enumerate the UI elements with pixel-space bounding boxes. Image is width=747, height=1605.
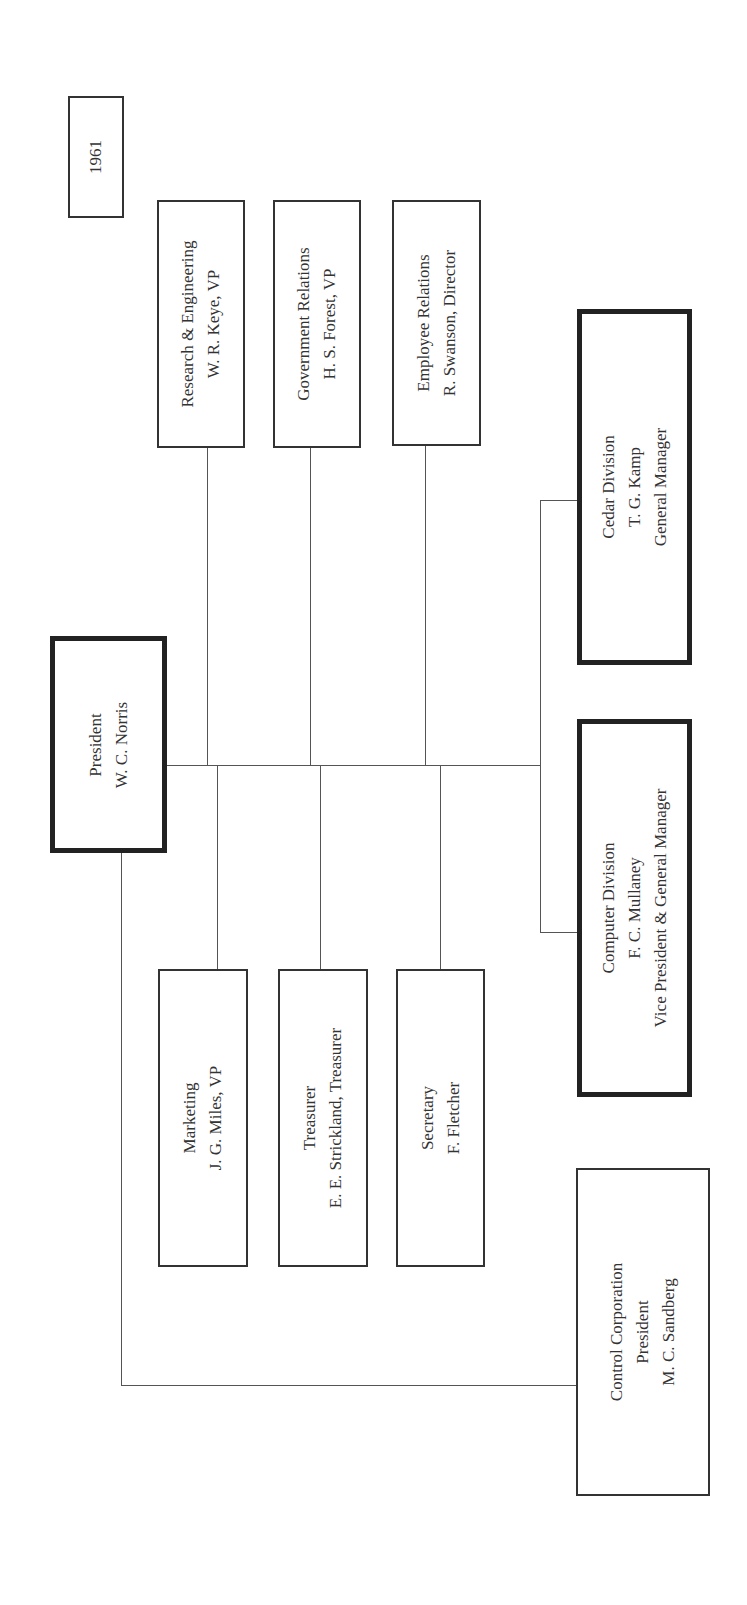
gov-connector [310,448,311,765]
control-corporation-role: President [630,1263,656,1401]
cedar-division-role: General Manager [648,428,674,546]
secretary-connector [440,765,441,969]
computer-division-name: F. C. Mullaney [622,789,648,1028]
control-corporation-title: Control Corporation [604,1263,630,1401]
secretary-name: F. Fletcher [441,1082,467,1154]
treasurer-title: Treasurer [297,1028,323,1208]
research-engineering-title: Research & Engineering [175,240,201,407]
government-relations-title: Government Relations [291,247,317,400]
marketing-box: Marketing J. G. Miles, VP [158,969,248,1267]
secretary-box: Secretary F. Fletcher [396,969,485,1267]
employee-relations-box: Employee Relations R. Swanson, Director [392,200,481,446]
control-corporation-name: M. C. Sandberg [656,1263,682,1401]
employee-relations-title: Employee Relations [411,250,437,396]
marketing-title: Marketing [177,1066,203,1171]
marketing-name: J. G. Miles, VP [203,1066,229,1171]
treasurer-connector [320,765,321,969]
treasurer-box: Treasurer E. E. Strickland, Treasurer [278,969,368,1267]
computer-division-role: Vice President & General Manager [648,789,674,1028]
research-engineering-box: Research & Engineering W. R. Keye, VP [157,200,245,448]
government-relations-name: H. S. Forest, VP [317,247,343,400]
marketing-connector [217,765,218,969]
president-box: President W. C. Norris [50,636,167,853]
secretary-title: Secretary [415,1082,441,1154]
cedar-connector [540,500,577,501]
computer-division-title: Computer Division [596,789,622,1028]
cedar-division-box: Cedar Division T. G. Kamp General Manage… [577,309,692,665]
employee-relations-name: R. Swanson, Director [437,250,463,396]
control-corp-vertical-line [121,853,122,1385]
computer-division-box: Computer Division F. C. Mullaney Vice Pr… [577,719,692,1097]
computer-connector [540,932,577,933]
emp-connector [425,446,426,765]
main-spine-line [167,765,541,766]
government-relations-box: Government Relations H. S. Forest, VP [273,200,361,448]
rd-connector [207,448,208,765]
treasurer-name: E. E. Strickland, Treasurer [323,1028,349,1208]
president-title: President [83,701,109,787]
control-corporation-box: Control Corporation President M. C. Sand… [576,1168,710,1496]
year-label: 1961 [83,140,109,174]
control-corp-horizontal-line [121,1385,577,1386]
research-engineering-name: W. R. Keye, VP [201,240,227,407]
president-name: W. C. Norris [109,701,135,787]
year-box: 1961 [68,96,124,218]
cedar-division-name: T. G. Kamp [622,428,648,546]
division-spine-line [540,500,541,933]
cedar-division-title: Cedar Division [596,428,622,546]
